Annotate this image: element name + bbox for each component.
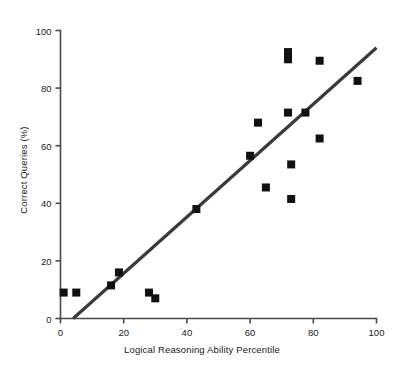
axes-group	[56, 31, 377, 324]
y-axis-tick-label: 80	[41, 83, 52, 94]
scatter-plot-figure: 020406080100020406080100 Logical Reasoni…	[0, 0, 404, 369]
x-axis-tick-label: 20	[118, 327, 129, 338]
y-axis-tick-label: 40	[41, 198, 52, 209]
data-point-marker	[107, 281, 115, 289]
y-axis-title: Correct Queries (%)	[18, 55, 29, 285]
data-point-marker	[316, 57, 324, 65]
data-point-marker	[72, 289, 80, 297]
data-point-marker	[262, 183, 270, 191]
y-axis-tick-label: 0	[46, 313, 51, 324]
x-axis-tick-label: 100	[369, 327, 385, 338]
data-point-marker	[115, 268, 123, 276]
data-point-marker	[316, 135, 324, 143]
x-axis-tick-label: 0	[58, 327, 63, 338]
data-point-marker	[60, 289, 68, 297]
data-point-marker	[254, 119, 262, 127]
data-point-markers	[60, 48, 362, 302]
data-point-marker	[301, 109, 309, 117]
y-axis-tick-label: 20	[41, 255, 52, 266]
x-axis-tick-label: 60	[245, 327, 256, 338]
x-axis-tick-label: 80	[308, 327, 319, 338]
data-point-marker	[284, 48, 292, 56]
data-point-marker	[287, 195, 295, 203]
data-point-marker	[246, 152, 254, 160]
trendline-path	[73, 48, 376, 319]
data-point-marker	[287, 160, 295, 168]
x-axis-tick-label: 40	[182, 327, 193, 338]
y-axis-tick-label: 60	[41, 140, 52, 151]
data-point-marker	[284, 109, 292, 117]
y-axis-tick-label: 100	[36, 25, 52, 36]
data-point-marker	[192, 205, 200, 213]
data-point-marker	[354, 77, 362, 85]
plot-canvas	[0, 0, 404, 369]
x-axis-title: Logical Reasoning Ability Percentile	[0, 344, 404, 355]
data-point-marker	[284, 55, 292, 63]
data-point-marker	[151, 294, 159, 302]
trendline	[73, 48, 376, 319]
